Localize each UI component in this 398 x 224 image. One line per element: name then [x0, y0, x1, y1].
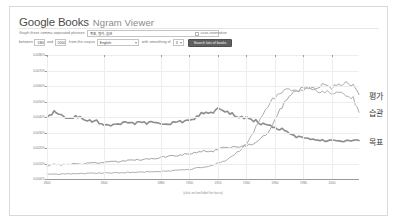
y-axis-tick-label: 0.0060% — [33, 84, 45, 88]
gridline-horizontal — [47, 86, 359, 87]
gridline-vertical — [189, 55, 190, 179]
year-start-input[interactable]: 1800 — [34, 39, 45, 46]
x-axis-tick-label: 1900 — [186, 181, 193, 185]
corpus-select[interactable]: English — [97, 39, 139, 46]
gridline-vertical — [246, 55, 247, 179]
smoothing-label: with smoothing of — [142, 39, 171, 46]
x-axis-tick-label: 1920 — [215, 181, 222, 185]
gridline-vertical — [218, 55, 219, 179]
between-label: between — [19, 39, 33, 46]
x-axis-tick-mark — [246, 55, 247, 57]
y-axis-tick-label: 0.0080% — [33, 53, 45, 57]
gridline-vertical — [275, 55, 276, 179]
x-axis-tick-mark — [275, 55, 276, 57]
content-frame: GoogleBooksNgram Viewer Graph these comm… — [9, 6, 388, 216]
ngram-viewer-page: GoogleBooksNgram Viewer Graph these comm… — [0, 0, 398, 224]
product-name: Ngram Viewer — [93, 17, 154, 28]
y-axis-tick-label: 0.0050% — [33, 100, 45, 104]
gridline-horizontal — [47, 133, 359, 134]
y-axis-tick-label: 0.0030% — [33, 131, 45, 135]
case-insensitive-checkbox[interactable] — [195, 32, 199, 36]
y-axis-tick-mark — [45, 179, 47, 180]
gridline-horizontal — [47, 71, 359, 72]
x-axis-tick-mark — [189, 55, 190, 57]
page-header: GoogleBooksNgram Viewer — [10, 7, 387, 29]
gridline-horizontal — [47, 148, 359, 149]
gridline-horizontal — [47, 117, 359, 118]
case-insensitive-label: case-insensitive — [201, 30, 227, 37]
x-axis-tick-mark — [47, 55, 48, 57]
gridline-horizontal — [47, 55, 359, 56]
header-divider — [19, 28, 379, 29]
gridline-vertical — [104, 55, 105, 179]
brand-books: Books — [58, 16, 89, 28]
y-axis-tick-label: 0.0010% — [33, 162, 45, 166]
series-label[interactable]: 목표 — [369, 136, 383, 147]
corpus-select-value: English — [100, 41, 111, 45]
series-label[interactable]: 평가 — [369, 90, 383, 101]
x-axis-tick-mark — [218, 55, 219, 57]
y-axis-tick-label: 0.0020% — [33, 146, 45, 150]
gridline-vertical — [47, 55, 48, 179]
brand-google: Google — [19, 16, 55, 28]
smoothing-select-value: 3 — [176, 41, 178, 45]
case-insensitive-row[interactable]: case-insensitive — [195, 30, 227, 37]
gridline-vertical — [332, 55, 333, 179]
smoothing-select[interactable]: 3 — [173, 39, 184, 46]
chevron-down-icon — [135, 42, 137, 44]
x-axis-tick-label: 1960 — [271, 181, 278, 185]
plot-area[interactable]: 0.0080%0.0070%0.0060%0.0050%0.0040%0.003… — [47, 55, 359, 179]
x-axis-tick-label: 2000 — [328, 181, 335, 185]
gridline-vertical — [303, 55, 304, 179]
gridline-horizontal — [47, 102, 359, 103]
x-axis-tick-mark — [104, 55, 105, 57]
ngram-chart: 0.0080%0.0070%0.0060%0.0050%0.0040%0.003… — [19, 51, 379, 203]
x-axis-tick-label: 1980 — [300, 181, 307, 185]
options-row: between1800and2000from the corpusEnglish… — [19, 39, 232, 47]
gridline-horizontal — [47, 164, 359, 165]
gridline-vertical — [161, 55, 162, 179]
y-axis-tick-label: 0.0070% — [33, 69, 45, 73]
series-line[interactable] — [47, 108, 359, 142]
x-axis-tick-mark — [161, 55, 162, 57]
x-axis-title: (click on line/label for focus) — [47, 191, 359, 195]
x-axis-tick-label: 1880 — [158, 181, 165, 185]
y-axis-tick-label: 0.0040% — [33, 115, 45, 119]
phrases-label: Graph these comma-separated phrases: — [19, 30, 85, 37]
series-line[interactable] — [47, 82, 359, 167]
chevron-down-icon — [180, 42, 182, 44]
year-end-input[interactable]: 2000 — [55, 39, 66, 46]
x-axis-tick-mark — [303, 55, 304, 57]
x-axis-tick-mark — [332, 55, 333, 57]
series-label[interactable]: 습관 — [369, 107, 383, 118]
x-axis-tick-label: 1940 — [243, 181, 250, 185]
corpus-label: from the corpus — [69, 39, 95, 46]
x-axis-line — [47, 179, 359, 180]
x-axis-tick-label: 1840 — [101, 181, 108, 185]
and-label: and — [47, 39, 53, 46]
phrases-row: Graph these comma-separated phrases:목표, … — [19, 30, 219, 37]
x-axis-tick-label: 1800 — [44, 181, 51, 185]
search-button[interactable]: Search lots of books — [188, 39, 233, 47]
